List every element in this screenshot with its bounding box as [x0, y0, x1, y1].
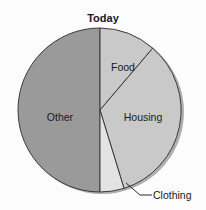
slice-label-clothing: Clothing: [153, 189, 192, 201]
pie-slice-other[interactable]: [18, 28, 100, 192]
slice-label-housing: Housing: [124, 111, 163, 123]
slice-label-other: Other: [47, 111, 74, 123]
page-title: Today: [87, 12, 119, 24]
pie-chart-figure: Today Food Housing Other Clothing: [0, 0, 206, 210]
pie-chart-svg: Today Food Housing Other Clothing: [0, 0, 206, 210]
slice-label-food: Food: [111, 61, 135, 73]
